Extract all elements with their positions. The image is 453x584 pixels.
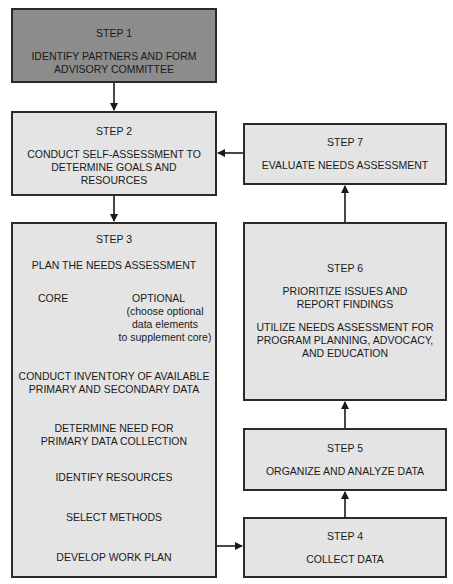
step-6-text: AND EDUCATION <box>245 347 445 360</box>
step-5-box: STEP 5 ORGANIZE AND ANALYZE DATA <box>243 428 447 491</box>
step-1-text: IDENTIFY PARTNERS AND FORM <box>13 50 215 63</box>
step-1-title: STEP 1 <box>13 27 215 40</box>
step-3-optional: OPTIONAL <box>132 292 185 305</box>
step-4-title: STEP 4 <box>245 530 445 543</box>
step-4-text: COLLECT DATA <box>245 553 445 566</box>
step-6-text: UTILIZE NEEDS ASSESSMENT FOR <box>245 321 445 334</box>
step-3-workplan: DEVELOP WORK PLAN <box>11 551 217 564</box>
step-3-title: STEP 3 <box>11 233 217 246</box>
step-6-text: REPORT FINDINGS <box>245 298 445 311</box>
step-6-box: STEP 6 PRIORITIZE ISSUES AND REPORT FIND… <box>243 222 447 401</box>
step-3-box <box>11 222 217 578</box>
step-6-text: PROGRAM PLANNING, ADVOCACY, <box>245 334 445 347</box>
step-3-inventory: CONDUCT INVENTORY OF AVAILABLE PRIMARY A… <box>11 370 217 396</box>
step-4-box: STEP 4 COLLECT DATA <box>243 517 447 578</box>
step-3-resources: IDENTIFY RESOURCES <box>11 471 217 484</box>
step-2-title: STEP 2 <box>13 125 215 138</box>
step-2-text: DETERMINE GOALS AND <box>13 161 215 174</box>
step-3-core: CORE <box>38 292 68 305</box>
step-3-determine: DETERMINE NEED FOR PRIMARY DATA COLLECTI… <box>11 422 217 448</box>
step-7-title: STEP 7 <box>245 136 445 149</box>
step-5-text: ORGANIZE AND ANALYZE DATA <box>245 465 445 478</box>
step-1-text: ADVISORY COMMITTEE <box>13 63 215 76</box>
step-3-plan: PLAN THE NEEDS ASSESSMENT <box>11 259 217 272</box>
step-6-text: PRIORITIZE ISSUES AND <box>245 285 445 298</box>
step-3-methods: SELECT METHODS <box>11 511 217 524</box>
step-7-box: STEP 7 EVALUATE NEEDS ASSESSMENT <box>243 123 447 185</box>
step-3-optional-note: (choose optional data elements to supple… <box>110 305 220 344</box>
step-5-title: STEP 5 <box>245 442 445 455</box>
step-7-text: EVALUATE NEEDS ASSESSMENT <box>245 159 445 172</box>
step-6-title: STEP 6 <box>245 262 445 275</box>
step-2-box: STEP 2 CONDUCT SELF-ASSESSMENT TO DETERM… <box>11 111 217 196</box>
step-2-text: RESOURCES <box>13 174 215 187</box>
step-1-box: STEP 1 IDENTIFY PARTNERS AND FORM ADVISO… <box>11 8 217 83</box>
step-2-text: CONDUCT SELF-ASSESSMENT TO <box>13 148 215 161</box>
